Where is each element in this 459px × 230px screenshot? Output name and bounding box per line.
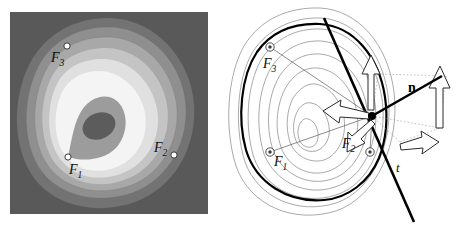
right-figure-svg: F3 F1 F2 n t (228, 0, 459, 230)
unit-arrow-lower-right (400, 131, 439, 154)
thin-contour-6 (277, 68, 358, 173)
label-f1-right: F1 (273, 154, 287, 172)
focus-marker-f1 (65, 154, 71, 160)
thin-contour-7 (287, 84, 344, 161)
contour-tangent-panel: F3 F1 F2 n t (228, 0, 459, 230)
focus-marker-f3-right (266, 43, 274, 51)
thin-contour-1 (229, 8, 395, 215)
contour-band-group (17, 18, 194, 208)
figure-root: F3 F1 F2 (0, 0, 459, 230)
label-tangent-line: t (396, 160, 400, 175)
focus-marker-f2-right (366, 148, 374, 156)
label-normal-vector: n (408, 80, 416, 95)
filled-level-set-panel: F3 F1 F2 (0, 0, 228, 230)
ray-f3-to-p (270, 47, 372, 116)
tangency-point (368, 112, 376, 120)
unit-arrow-vertical (362, 55, 380, 110)
label-f3-right: F3 (262, 56, 277, 74)
focus-marker-f2 (171, 152, 177, 158)
focus-marker-f1-right (266, 148, 274, 156)
thin-contour-9 (298, 119, 318, 148)
thin-contour-group (229, 8, 395, 215)
left-figure-svg: F3 F1 F2 (0, 0, 228, 230)
focus-marker-f3 (64, 43, 70, 49)
